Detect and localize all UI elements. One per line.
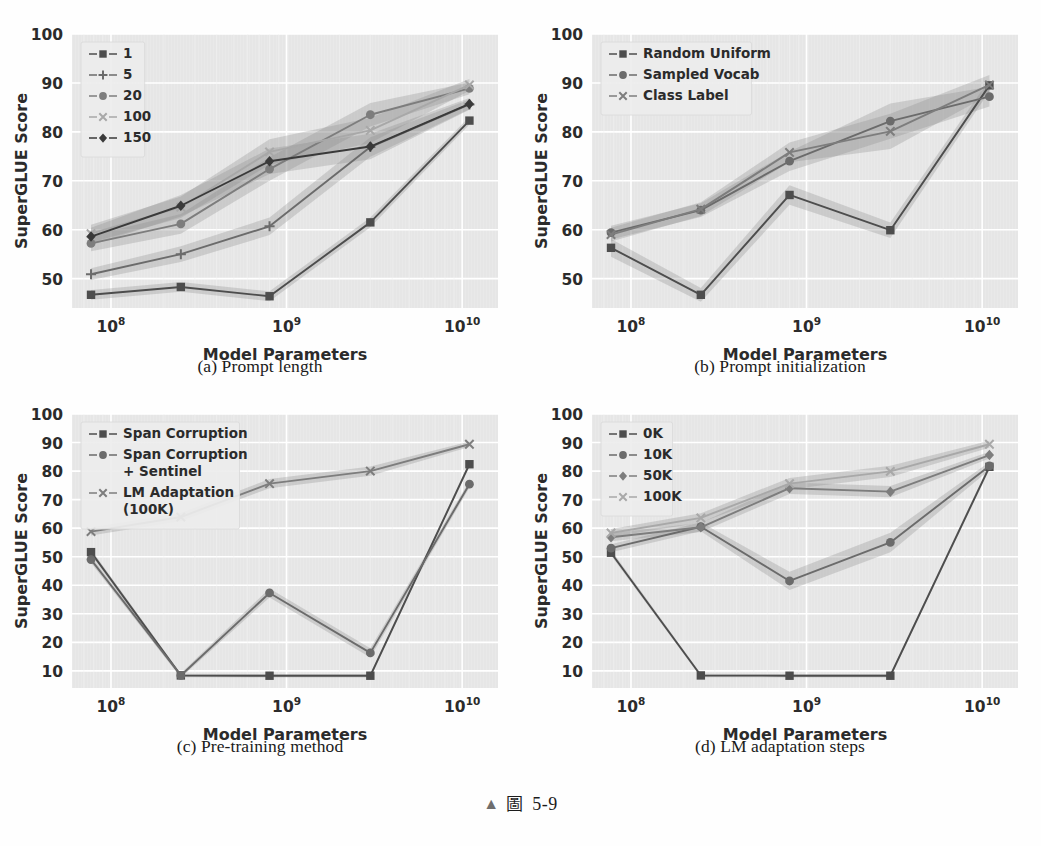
legend-label: Span Corruption (123, 446, 248, 462)
y-axis-tick-label: 50 (561, 549, 583, 567)
legend[interactable]: Span CorruptionSpan Corruption+ Sentinel… (81, 422, 248, 529)
data-point-marker (465, 116, 473, 124)
legend-label: 1 (123, 45, 132, 61)
y-axis-tick-label: 10 (41, 663, 63, 681)
x-axis-tick-label: 109 (272, 315, 301, 336)
y-axis-label: SuperGLUE Score (12, 93, 31, 249)
legend-label: 100K (643, 488, 682, 504)
y-axis-tick-label: 90 (561, 435, 583, 453)
y-axis-tick-label: 10 (561, 663, 583, 681)
data-point-marker (886, 538, 895, 547)
data-point-marker (785, 191, 793, 199)
y-axis-tick-label: 50 (41, 549, 63, 567)
data-point-marker (785, 577, 794, 586)
data-point-marker (265, 589, 274, 598)
legend-label: Class Label (643, 87, 729, 103)
data-point-marker (785, 672, 793, 680)
legend-label: 5 (123, 66, 132, 82)
legend-label: Random Uniform (643, 45, 771, 61)
data-point-marker (619, 430, 626, 437)
data-point-marker (99, 430, 106, 437)
panel-d: 1020304050607080901001081091010Model Par… (530, 398, 1030, 778)
y-axis-tick-label: 20 (561, 634, 583, 652)
data-point-marker (886, 672, 894, 680)
y-axis-label: SuperGLUE Score (12, 473, 31, 629)
y-axis-tick-label: 60 (561, 520, 583, 538)
data-point-marker (99, 50, 106, 57)
data-point-marker (87, 291, 95, 299)
x-axis-tick-label: 109 (792, 695, 821, 716)
y-axis-tick-label: 100 (31, 26, 64, 44)
data-point-marker (99, 451, 107, 459)
panel-c-caption: (c) Pre-training method (10, 736, 510, 757)
data-point-marker (985, 462, 994, 471)
y-axis-tick-label: 90 (561, 75, 583, 93)
y-axis-label: SuperGLUE Score (532, 473, 551, 629)
y-axis-tick-label: 70 (41, 492, 63, 510)
data-point-marker (87, 555, 96, 564)
y-axis-tick-label: 60 (561, 222, 583, 240)
data-point-marker (366, 110, 375, 119)
legend-label: LM Adaptation (123, 484, 234, 500)
x-axis-tick-label: 1010 (964, 695, 1000, 716)
legend-label: 20 (123, 87, 142, 103)
x-axis-tick-label: 1010 (444, 695, 480, 716)
y-axis-tick-label: 80 (41, 124, 63, 142)
data-point-marker (886, 117, 895, 126)
chart-d-lm-adaptation-steps: 1020304050607080901001081091010Model Par… (530, 398, 1030, 743)
x-axis-tick-label: 108 (617, 315, 646, 336)
data-point-marker (265, 672, 273, 680)
legend[interactable]: Random UniformSampled VocabClass Label (601, 42, 771, 115)
y-axis-label: SuperGLUE Score (532, 93, 551, 249)
data-point-marker (619, 71, 627, 79)
y-axis-tick-label: 80 (561, 124, 583, 142)
legend-label: 100 (123, 108, 151, 124)
panel-a-caption: (a) Prompt length (10, 356, 510, 377)
y-axis-tick-label: 40 (561, 577, 583, 595)
figure-caption: ▲ 圖 5-9 (0, 790, 1041, 815)
y-axis-tick-label: 100 (551, 26, 584, 44)
y-axis-tick-label: 30 (41, 606, 63, 624)
y-axis-tick-label: 70 (561, 492, 583, 510)
y-axis-tick-label: 60 (41, 222, 63, 240)
triangle-icon: ▲ (483, 795, 501, 812)
data-point-marker (176, 219, 185, 228)
legend-label: (100K) (123, 501, 174, 517)
data-point-marker (366, 648, 375, 657)
legend-label: Sampled Vocab (643, 66, 760, 82)
data-point-marker (465, 460, 473, 468)
data-point-marker (607, 544, 616, 553)
y-axis-tick-label: 90 (41, 435, 63, 453)
panel-a-plot-area: 50607080901001081091010Model ParametersS… (10, 18, 510, 363)
data-point-marker (366, 218, 374, 226)
data-point-marker (697, 291, 705, 299)
legend-label: 50K (643, 467, 673, 483)
chart-b-prompt-initialization: 50607080901001081091010Model ParametersS… (530, 18, 1030, 363)
data-point-marker (886, 226, 894, 234)
y-axis-tick-label: 60 (41, 520, 63, 538)
panel-d-caption: (d) LM adaptation steps (530, 736, 1030, 757)
data-point-marker (87, 548, 95, 556)
panel-d-plot-area: 1020304050607080901001081091010Model Par… (530, 398, 1030, 743)
legend[interactable]: 0K10K50K100K (601, 422, 682, 516)
panel-c-plot-area: 1020304050607080901001081091010Model Par… (10, 398, 510, 743)
x-axis-tick-label: 108 (617, 695, 646, 716)
panel-b: 50607080901001081091010Model ParametersS… (530, 18, 1030, 398)
data-point-marker (265, 292, 273, 300)
x-axis-tick-label: 1010 (444, 315, 480, 336)
figure-caption-label: 圖 (506, 794, 523, 814)
legend-label: 0K (643, 425, 663, 441)
data-point-marker (465, 480, 474, 489)
x-axis-tick-label: 108 (97, 695, 126, 716)
y-axis-tick-label: 50 (561, 271, 583, 289)
chart-a-prompt-length: 50607080901001081091010Model ParametersS… (10, 18, 510, 363)
data-point-marker (985, 92, 994, 101)
data-point-marker (785, 157, 794, 166)
x-axis-tick-label: 109 (272, 695, 301, 716)
data-point-marker (607, 244, 615, 252)
panel-b-caption: (b) Prompt initialization (530, 356, 1030, 377)
y-axis-tick-label: 20 (41, 634, 63, 652)
y-axis-tick-label: 90 (41, 75, 63, 93)
legend[interactable]: 1520100150 (81, 42, 151, 157)
legend-label: 10K (643, 446, 673, 462)
